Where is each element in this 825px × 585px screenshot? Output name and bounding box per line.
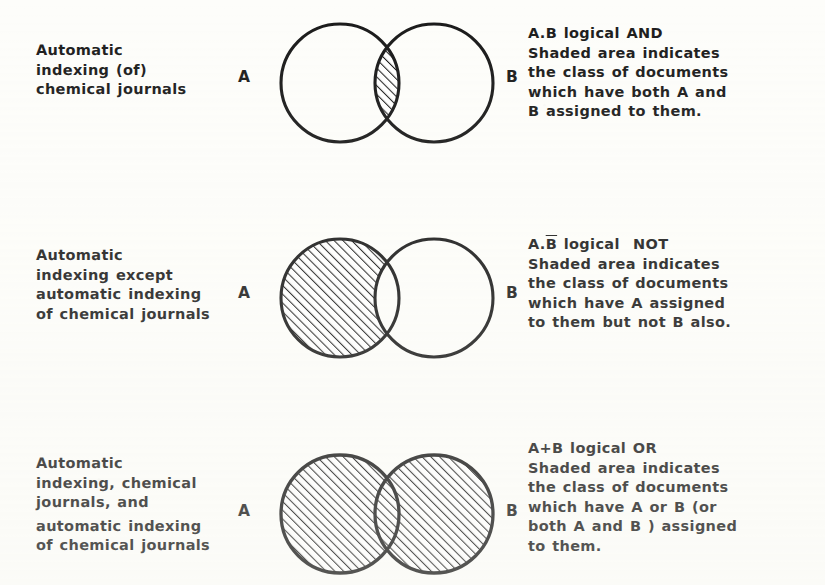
description-text-or: A+B logical OR Shaded area indicates the… [528, 439, 820, 556]
venn-logic-figure: Automatic indexing (of) chemical journal… [0, 0, 825, 585]
description-line: Shaded area indicates [528, 459, 820, 479]
query-line: Automatic [36, 455, 236, 475]
diagram-row-not: Automatic indexing except automatic inde… [0, 195, 825, 405]
description-line: which have both A and [528, 83, 820, 103]
description-line: which have A assigned [528, 294, 820, 314]
description-line: A+B logical OR [528, 439, 820, 459]
description-line: to them but not B also. [528, 313, 820, 333]
query-line: automatic indexing [36, 286, 236, 306]
description-line: the class of documents [528, 63, 820, 83]
query-text-or: Automatic indexing, chemical journals, a… [36, 455, 236, 557]
description-line: Shaded area indicates [528, 44, 820, 64]
query-line: automatic indexing [36, 518, 236, 538]
query-line: Automatic [36, 247, 236, 267]
venn-diagram-and [272, 8, 502, 162]
query-line: of chemical journals [36, 537, 236, 557]
description-text-not: A.B logical NOT Shaded area indicates th… [528, 235, 820, 333]
set-label-a: A [238, 284, 250, 302]
query-line: indexing, chemical [36, 475, 236, 495]
expression-suffix: logical NOT [557, 236, 668, 252]
query-text-and: Automatic indexing (of) chemical journal… [36, 42, 236, 101]
description-line: B assigned to them. [528, 102, 820, 122]
description-line: which have A or B (or [528, 498, 820, 518]
description-line: A.B logical AND [528, 24, 820, 44]
expression-b-negated: B [546, 236, 557, 252]
description-line: the class of documents [528, 478, 820, 498]
description-line-expression: A.B logical NOT [528, 235, 820, 255]
expression-prefix: A. [528, 236, 546, 252]
venn-svg-and [272, 8, 502, 158]
description-text-and: A.B logical AND Shaded area indicates th… [528, 24, 820, 122]
query-line: journals, and [36, 494, 236, 514]
query-line: Automatic [36, 42, 236, 62]
description-line: the class of documents [528, 274, 820, 294]
venn-svg-not [272, 223, 502, 373]
set-label-b: B [506, 68, 518, 86]
query-line: indexing (of) [36, 62, 236, 82]
venn-diagram-or [272, 439, 502, 585]
set-label-a: A [238, 502, 250, 520]
shaded-a-minus-b [272, 223, 502, 373]
description-line: Shaded area indicates [528, 255, 820, 275]
diagram-row-or: Automatic indexing, chemical journals, a… [0, 405, 825, 585]
description-line: to them. [528, 537, 820, 557]
venn-svg-or [272, 439, 502, 585]
set-label-a: A [238, 68, 250, 86]
query-line: of chemical journals [36, 306, 236, 326]
venn-diagram-not [272, 223, 502, 377]
query-line: indexing except [36, 267, 236, 287]
set-label-b: B [506, 502, 518, 520]
set-label-b: B [506, 284, 518, 302]
description-line: both A and B ) assigned [528, 517, 820, 537]
diagram-row-and: Automatic indexing (of) chemical journal… [0, 0, 825, 195]
query-text-not: Automatic indexing except automatic inde… [36, 247, 236, 325]
query-line: chemical journals [36, 81, 236, 101]
